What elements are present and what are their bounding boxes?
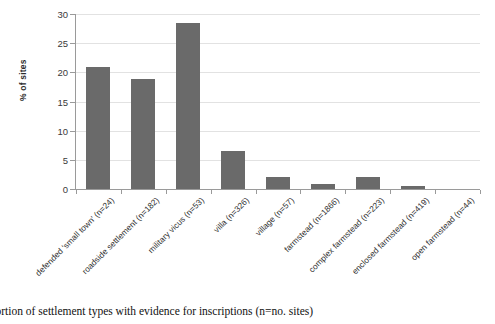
bar <box>266 177 290 189</box>
bar-slot <box>211 14 256 189</box>
y-axis-title: % of sites <box>18 59 28 101</box>
y-tick-mark <box>70 43 75 44</box>
figure-caption: oportion of settlement types with eviden… <box>0 305 479 317</box>
bar-slot <box>390 14 435 189</box>
bar <box>356 177 380 189</box>
bar-slot <box>345 14 390 189</box>
y-tick-label: 10 <box>44 125 68 136</box>
bar-series <box>76 14 480 189</box>
y-tick-label: 5 <box>44 154 68 165</box>
y-tick-mark <box>70 102 75 103</box>
y-tick-mark <box>70 160 75 161</box>
y-tick-mark <box>70 131 75 132</box>
bar <box>131 79 155 189</box>
y-axis-line <box>75 14 76 190</box>
x-axis-label: roadside settlement (n=182) <box>80 195 161 276</box>
bar-slot <box>121 14 166 189</box>
x-axis-label: complex farmstead (n=223) <box>306 195 386 275</box>
y-tick-mark <box>70 14 75 15</box>
bar <box>176 23 200 189</box>
plot-area <box>76 14 480 189</box>
bar <box>86 67 110 189</box>
bar-slot <box>435 14 480 189</box>
x-axis-label: village (n=57) <box>253 195 296 238</box>
y-tick-label: 15 <box>44 96 68 107</box>
x-axis-label: villa (n=326) <box>212 195 252 235</box>
y-tick-mark <box>70 72 75 73</box>
bar-slot <box>76 14 121 189</box>
y-tick-label: 30 <box>44 9 68 20</box>
x-axis-label: enclosed farmstead (n=419) <box>350 195 431 276</box>
x-axis-label: defended 'small town' (n=24) <box>34 195 117 278</box>
bar-chart-figure: 051015202530 % of sites defended 'small … <box>0 0 495 324</box>
bar-slot <box>300 14 345 189</box>
bar-slot <box>166 14 211 189</box>
bar-slot <box>256 14 301 189</box>
y-tick-label: 20 <box>44 67 68 78</box>
x-axis-labels: defended 'small town' (n=24)roadside set… <box>0 189 495 299</box>
y-tick-label: 25 <box>44 38 68 49</box>
bar <box>221 151 245 190</box>
